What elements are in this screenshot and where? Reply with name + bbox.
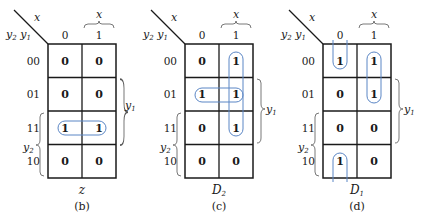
right-brace-label: y1 — [404, 104, 415, 119]
cell-10-0: 0 — [185, 156, 219, 167]
cell-01-0: 0 — [48, 89, 82, 100]
function-name: D1 — [323, 184, 391, 200]
row-header-01: 01 — [157, 89, 177, 100]
caption: (d) — [323, 201, 391, 213]
col-brace-label: x — [371, 9, 377, 20]
left-brace-sub: 2 — [29, 147, 33, 155]
cell-10-0: 1 — [323, 156, 357, 167]
row-header-01: 01 — [295, 89, 315, 100]
cell-01-1: 1 — [357, 89, 391, 100]
row-header-00: 00 — [295, 56, 315, 67]
col-brace-label: x — [233, 9, 239, 20]
cell-00-1: 0 — [82, 56, 116, 67]
cell-11-0: 0 — [323, 123, 357, 134]
cell-11-1: 1 — [82, 123, 116, 134]
left-brace-sub: 2 — [304, 147, 308, 155]
row-header-11: 11 — [20, 123, 40, 134]
left-brace-label: y2 — [23, 142, 34, 157]
col-header-0: 0 — [323, 30, 357, 41]
left-brace-label: y2 — [160, 142, 171, 157]
function-name-text: D — [350, 183, 360, 197]
cell-10-1: 0 — [82, 156, 116, 167]
kmap-c: x y2 y1 x 0 1 00 01 11 10 0 1 1 1 0 1 0 … — [137, 0, 277, 223]
function-name-sub: 1 — [360, 190, 364, 198]
row-header-11: 11 — [295, 123, 315, 134]
row-header-10: 10 — [20, 156, 40, 167]
col-brace-label: x — [96, 9, 102, 20]
col-header-1: 1 — [219, 30, 253, 41]
cell-11-1: 0 — [357, 123, 391, 134]
cell-11-1: 1 — [219, 123, 253, 134]
row-header-00: 00 — [157, 56, 177, 67]
row-var-label: y2 y1 — [143, 29, 168, 44]
cell-01-1: 1 — [219, 89, 253, 100]
function-name: z — [48, 184, 116, 200]
cell-11-0: 0 — [185, 123, 219, 134]
cell-01-0: 0 — [323, 89, 357, 100]
col-header-0: 0 — [185, 30, 219, 41]
function-name-text: D — [212, 183, 222, 197]
right-brace-sub: 1 — [410, 109, 414, 117]
right-brace-label: y1 — [125, 100, 136, 115]
col-header-1: 1 — [82, 30, 116, 41]
col-var-label: x — [309, 12, 315, 23]
caption: (c) — [185, 201, 253, 213]
row-header-11: 11 — [157, 123, 177, 134]
cell-10-0: 0 — [48, 156, 82, 167]
cell-10-1: 0 — [219, 156, 253, 167]
col-var-label: x — [171, 12, 177, 23]
row-var-b-sub: 1 — [163, 34, 167, 42]
row-var-b-sub: 1 — [301, 34, 305, 42]
row-var-a-sub: 2 — [12, 34, 16, 42]
row-header-10: 10 — [295, 156, 315, 167]
function-name-sub: 2 — [222, 190, 226, 198]
right-brace-sub: 1 — [131, 105, 135, 113]
cell-11-0: 1 — [48, 123, 82, 134]
col-var-label: x — [34, 12, 40, 23]
cell-00-1: 1 — [219, 56, 253, 67]
row-var-a-sub: 2 — [149, 34, 153, 42]
row-var-label: y2 y1 — [281, 29, 306, 44]
row-var-b-sub: 1 — [26, 34, 30, 42]
left-brace-label: y2 — [298, 142, 309, 157]
cell-00-0: 0 — [185, 56, 219, 67]
caption: (b) — [48, 201, 116, 213]
function-name-text: z — [79, 183, 85, 197]
col-header-0: 0 — [48, 30, 82, 41]
cell-00-0: 1 — [323, 56, 357, 67]
cell-01-0: 1 — [185, 89, 219, 100]
cell-00-1: 1 — [357, 56, 391, 67]
kmap-b: x y2 y1 x 0 1 00 01 11 10 0 0 0 0 1 1 0 … — [0, 0, 140, 223]
cell-00-0: 0 — [48, 56, 82, 67]
function-name: D2 — [185, 184, 253, 200]
cell-01-1: 0 — [82, 89, 116, 100]
col-header-1: 1 — [357, 30, 391, 41]
row-var-a-sub: 2 — [287, 34, 291, 42]
cell-10-1: 0 — [357, 156, 391, 167]
row-header-01: 01 — [20, 89, 40, 100]
left-brace-sub: 2 — [166, 147, 170, 155]
kmap-d: x y2 y1 x 0 1 00 01 11 10 1 1 0 1 0 0 1 … — [275, 0, 415, 223]
row-var-label: y2 y1 — [6, 29, 31, 44]
row-header-00: 00 — [20, 56, 40, 67]
row-header-10: 10 — [157, 156, 177, 167]
